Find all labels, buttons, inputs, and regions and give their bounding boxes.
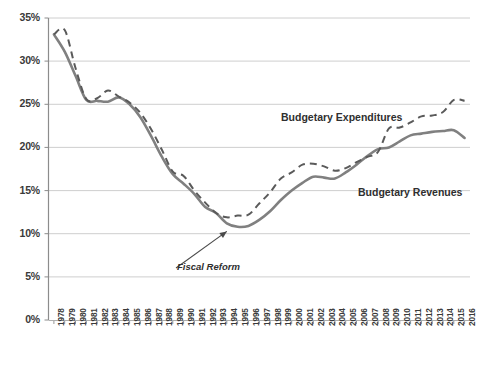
budget-line-chart: 0%5%10%15%20%25%30%35% 19781979198019811… (0, 0, 483, 366)
x-axis-tick-label: 1997 (263, 308, 272, 326)
expenditures-series-label: Budgetary Expenditures (281, 111, 402, 123)
y-axis-tick-label: 0% (0, 313, 40, 325)
x-axis-tick-label: 1979 (68, 308, 77, 326)
x-axis-tick-label: 2007 (371, 308, 380, 326)
x-axis-tick-label: 1981 (90, 308, 99, 326)
x-axis-tick-label: 1988 (165, 308, 174, 326)
x-axis-tick-label: 1982 (101, 308, 110, 326)
x-axis-tick-label: 2004 (338, 308, 347, 326)
x-axis-tick-label: 2013 (436, 308, 445, 326)
x-axis-tick-label: 2010 (403, 308, 412, 326)
x-axis-tick-label: 2012 (425, 308, 434, 326)
y-axis-tick-label: 35% (0, 11, 40, 23)
series-line-budgetary-revenues (54, 34, 465, 227)
x-axis-tick-label: 1978 (57, 308, 66, 326)
x-axis-tick-label: 1996 (252, 308, 261, 326)
x-axis-tick-label: 2009 (392, 308, 401, 326)
x-axis-tick-label: 2000 (295, 308, 304, 326)
x-axis-tick-label: 2005 (349, 308, 358, 326)
x-axis-tick-label: 1983 (111, 308, 120, 326)
x-axis-tick-label: 2006 (360, 308, 369, 326)
x-axis-tick-label: 1998 (274, 308, 283, 326)
x-axis-tick-label: 1985 (133, 308, 142, 326)
x-axis-tick-label: 1995 (241, 308, 250, 326)
y-axis-tick-label: 25% (0, 97, 40, 109)
x-axis-tick-label: 1992 (209, 308, 218, 326)
x-axis-tick-label: 2001 (306, 308, 315, 326)
x-axis-tick-label: 1984 (122, 308, 131, 326)
x-axis-tick-label: 2014 (446, 308, 455, 326)
x-axis-tick-label: 2008 (382, 308, 391, 326)
x-axis-tick-label: 2002 (317, 308, 326, 326)
revenues-series-label: Budgetary Revenues (358, 186, 462, 198)
x-axis-tick-label: 1986 (144, 308, 153, 326)
x-axis-tick-label: 1999 (284, 308, 293, 326)
y-axis-tick-label: 15% (0, 184, 40, 196)
fiscal-reform-label: Fiscal Reform (177, 261, 240, 272)
x-axis-tick-label: 2011 (414, 309, 423, 326)
x-axis-tick-label: 1989 (176, 308, 185, 326)
x-axis-tick-label: 1993 (219, 308, 228, 326)
x-axis-tick-label: 1980 (79, 308, 88, 326)
y-axis-tick-label: 20% (0, 140, 40, 152)
y-axis-tick-label: 5% (0, 270, 40, 282)
x-axis-tick-label: 2003 (328, 308, 337, 326)
x-axis-tick-label: 1991 (198, 308, 207, 326)
x-axis-tick-label: 1990 (187, 308, 196, 326)
x-axis-tick-label: 2015 (457, 308, 466, 326)
y-axis-tick-label: 10% (0, 227, 40, 239)
x-axis-tick-label: 2016 (468, 308, 477, 326)
x-axis-tick-label: 1987 (155, 308, 164, 326)
x-axis-tick-label: 1994 (230, 308, 239, 326)
y-axis-tick-label: 30% (0, 54, 40, 66)
gridlines (49, 18, 471, 277)
